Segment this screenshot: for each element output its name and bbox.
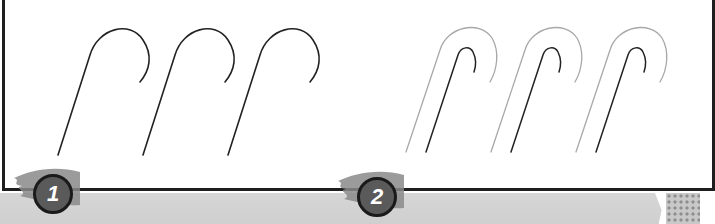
hook-icon [406, 28, 497, 152]
hook-icon [58, 29, 149, 155]
step-number: 2 [371, 184, 383, 210]
step-1-hooks [58, 29, 319, 155]
hook-icon [576, 28, 667, 152]
step-badge-1: 1 [33, 174, 73, 214]
step-2-hooks [406, 28, 667, 152]
step-badge-2: 2 [357, 177, 397, 217]
hook-icon [491, 28, 582, 152]
hook-icon [143, 29, 234, 155]
hook-icon [228, 29, 319, 155]
step-number: 1 [47, 181, 59, 207]
